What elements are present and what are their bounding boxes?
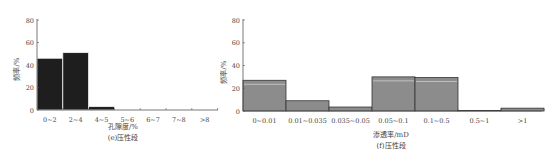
bar [501, 108, 544, 111]
x-tick-label: 0.01~0.035 [288, 117, 327, 125]
x-axis-label: 孔隙度/% [108, 122, 138, 131]
x-tick-label: 0.5~1 [470, 117, 490, 125]
x-tick-label: 6~7 [146, 116, 160, 124]
y-axis-label: 频率/% [220, 60, 228, 83]
y-tick-label: 20 [26, 84, 34, 92]
x-tick-label: 0.035~0.05 [331, 117, 370, 125]
bars [243, 77, 544, 111]
x-tick-label: 0~0.01 [252, 117, 276, 125]
porosity-histogram-plot: 0~22~44~55~66~77~8>8020406080 频率/% 孔隙度/%… [0, 0, 230, 159]
bar [63, 53, 89, 110]
x-tick-label: 0.1~0.5 [423, 117, 449, 125]
x-tick-label: 2~4 [69, 116, 83, 124]
x-axis-label: 渗透率/mD [373, 130, 409, 139]
bar [286, 101, 329, 111]
bar [329, 107, 372, 111]
bar [243, 80, 286, 111]
y-axis-label: 频率/% [12, 57, 21, 80]
chart-caption: (e)压性段 [108, 133, 139, 142]
x-tick-label: 4~5 [95, 116, 109, 124]
bar [372, 77, 415, 111]
y-tick-label: 40 [232, 62, 240, 70]
chart-caption: (f)压性段 [376, 141, 405, 150]
permeability-histogram-plot: 0~0.010.01~0.0350.035~0.050.05~0.10.1~0.… [220, 0, 557, 159]
bar [89, 107, 115, 110]
x-tick-label: 0~2 [43, 116, 57, 124]
x-tick-label: 7~8 [172, 116, 186, 124]
y-tick-label: 0 [236, 108, 240, 116]
x-tick-label: 0.05~0.1 [378, 117, 408, 125]
y-tick-label: 0 [30, 107, 34, 115]
x-tick-label: >1 [518, 117, 528, 125]
bars [37, 53, 114, 110]
bar [37, 58, 63, 110]
y-tick-label: 20 [232, 85, 240, 93]
bar [415, 77, 458, 111]
y-tick-label: 60 [26, 39, 34, 47]
porosity-histogram: 0~22~44~55~66~77~8>8020406080 频率/% 孔隙度/%… [0, 0, 230, 159]
y-tick-label: 40 [26, 62, 34, 70]
x-tick-label: >8 [200, 116, 210, 124]
y-tick-label: 80 [232, 17, 240, 25]
y-tick-label: 80 [26, 17, 34, 25]
permeability-histogram: 0~0.010.01~0.0350.035~0.050.05~0.10.1~0.… [220, 0, 557, 159]
y-tick-label: 60 [232, 39, 240, 47]
